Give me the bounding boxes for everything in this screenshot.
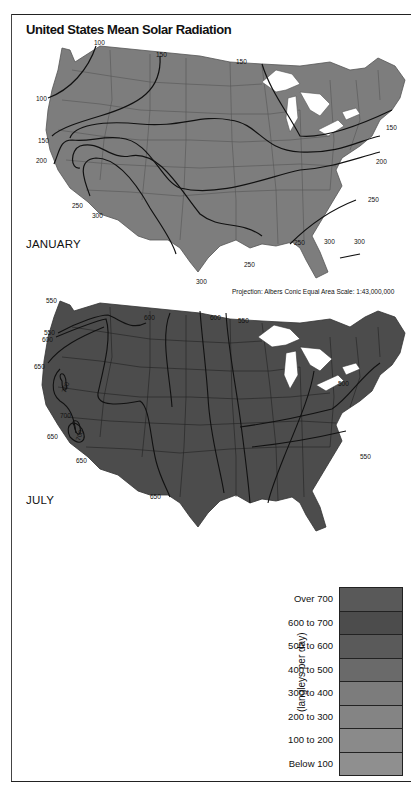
svg-text:300: 300 [354, 238, 365, 245]
legend-label: 100 to 200 [270, 728, 333, 752]
legend-swatch [340, 659, 402, 683]
legend-label: 600 to 700 [270, 611, 333, 635]
legend-label: Below 100 [270, 752, 333, 776]
svg-text:150: 150 [156, 51, 167, 58]
us-landmass [46, 46, 405, 278]
svg-text:300: 300 [324, 238, 335, 245]
svg-text:250: 250 [294, 239, 305, 246]
svg-text:600: 600 [144, 314, 155, 321]
us-landmass [42, 301, 405, 531]
svg-text:250: 250 [72, 202, 83, 209]
legend-label: Over 700 [270, 587, 333, 611]
legend-labels: Over 700 600 to 700 500 to 600 400 to 50… [270, 587, 333, 775]
svg-text:250: 250 [244, 261, 255, 268]
svg-text:200: 200 [36, 157, 47, 164]
svg-text:100: 100 [36, 95, 47, 102]
svg-text:500: 500 [338, 380, 349, 387]
july-label: JULY [26, 494, 54, 506]
svg-text:600: 600 [42, 336, 53, 343]
svg-text:650: 650 [76, 457, 87, 464]
legend-swatch [340, 612, 402, 636]
svg-text:650: 650 [47, 433, 58, 440]
svg-text:150: 150 [386, 124, 397, 131]
svg-text:550: 550 [238, 317, 249, 324]
svg-text:600: 600 [210, 314, 221, 321]
legend-swatch [340, 635, 402, 659]
svg-text:150: 150 [38, 137, 49, 144]
frame-top-rule [11, 14, 411, 15]
svg-text:300: 300 [92, 212, 103, 219]
svg-text:650: 650 [34, 363, 45, 370]
svg-text:700: 700 [60, 412, 71, 419]
legend-swatch [340, 706, 402, 730]
svg-text:550: 550 [46, 297, 57, 304]
july-map: 550 600 600 550 550 600 650 700 700 700 … [0, 297, 411, 537]
svg-text:200: 200 [376, 158, 387, 165]
legend-label: 500 to 600 [270, 634, 333, 658]
svg-text:550: 550 [44, 329, 55, 336]
legend-swatch [340, 753, 402, 776]
svg-text:250: 250 [368, 196, 379, 203]
svg-text:100: 100 [94, 40, 105, 46]
legend-swatch [340, 588, 402, 612]
legend-swatches [339, 587, 403, 776]
legend-label: 400 to 500 [270, 658, 333, 682]
legend-swatch [340, 682, 402, 706]
july-us-map-svg: 550 600 600 550 550 600 650 700 700 700 … [0, 297, 411, 537]
frame-bottom-rule [11, 781, 411, 782]
january-label: JANUARY [26, 238, 81, 250]
svg-text:550: 550 [360, 453, 371, 460]
svg-text:150: 150 [236, 58, 247, 65]
legend-label: 200 to 300 [270, 705, 333, 729]
page-title: United States Mean Solar Radiation [26, 22, 231, 37]
svg-text:650: 650 [150, 493, 161, 500]
projection-note: Projection: Albers Conic Equal Area Scal… [232, 288, 394, 295]
legend-label: 300 to 400 [270, 681, 333, 705]
svg-text:300: 300 [196, 278, 207, 285]
legend-swatch [340, 729, 402, 753]
